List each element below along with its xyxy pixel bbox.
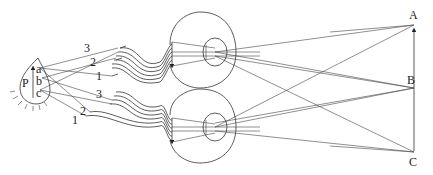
lower-eye	[170, 89, 260, 163]
lower-fiber-label-1: 1	[72, 113, 78, 127]
label-P: P	[22, 76, 29, 90]
lower-fiber-label-3: 3	[96, 87, 102, 101]
upper-eye	[170, 12, 260, 88]
label-c: c	[36, 86, 41, 100]
label-A: A	[409, 8, 418, 22]
projection-diagram: P a b c 3 2 1 3 2 1 A B C	[0, 0, 433, 175]
upper-fiber-label-3: 3	[84, 41, 90, 55]
label-C: C	[409, 155, 417, 169]
label-B: B	[407, 73, 415, 87]
upper-fiber-label-2: 2	[90, 55, 96, 69]
upper-nerve-fibers	[112, 44, 172, 83]
upper-fiber-label-1: 1	[96, 69, 102, 83]
brain-region	[10, 58, 50, 111]
lower-fiber-label-2: 2	[80, 104, 86, 118]
projection-rays	[215, 25, 414, 152]
brain-connection-lines	[40, 48, 118, 116]
